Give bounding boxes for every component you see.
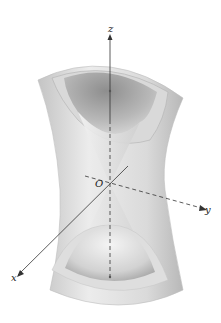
origin-label: O <box>95 178 103 189</box>
x-axis-label: x <box>11 272 17 283</box>
x-arrow-icon <box>17 270 24 277</box>
z-axis-label: z <box>108 23 113 34</box>
lower-vertex-dot <box>109 276 111 278</box>
y-axis-label: y <box>205 204 211 215</box>
z-arrow-icon <box>108 34 113 40</box>
diagram-canvas <box>0 0 221 323</box>
upper-vertex-dot <box>109 90 111 92</box>
